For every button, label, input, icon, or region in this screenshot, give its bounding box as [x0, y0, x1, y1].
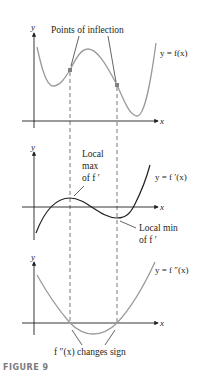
inflection-annotation: Points of inflection [51, 25, 124, 35]
bottom-panel: y x f ″(x) changes sign y = f ″(x) [22, 252, 189, 358]
sign-change-annotation: f ″(x) changes sign [54, 347, 126, 358]
local-min-leader [120, 221, 136, 228]
local-max-leader [74, 186, 84, 196]
f-curve [37, 43, 156, 116]
bottom-y-label: y [30, 252, 35, 262]
fdoubleprime-curve-label: y = f ″(x) [155, 265, 189, 275]
fprime-curve-label: y = f ′(x) [155, 172, 187, 182]
middle-x-label: x [159, 202, 164, 212]
inflection-point-1 [68, 68, 72, 72]
sign-change-leader-1 [72, 330, 82, 345]
dashed-guides [70, 72, 117, 323]
sign-change-leader-2 [105, 330, 115, 345]
middle-panel: y x Local max of f ′ Local min of f ′ y … [22, 142, 187, 245]
top-x-label: x [159, 116, 164, 126]
local-max-annotation: Local max of f ′ [82, 149, 106, 183]
figure-caption: FIGURE 9 [3, 363, 48, 372]
local-min-annotation: Local min of f ′ [139, 223, 180, 245]
top-y-label: y [30, 22, 35, 32]
figure-9-diagram: y x Points of inflection y = f(x) y x Lo… [0, 0, 209, 385]
inflection-point-2 [115, 83, 119, 87]
middle-y-label: y [30, 142, 35, 152]
top-panel: y x Points of inflection y = f(x) [22, 22, 188, 128]
bottom-x-label: x [159, 318, 164, 328]
f-curve-label: y = f(x) [160, 48, 188, 58]
